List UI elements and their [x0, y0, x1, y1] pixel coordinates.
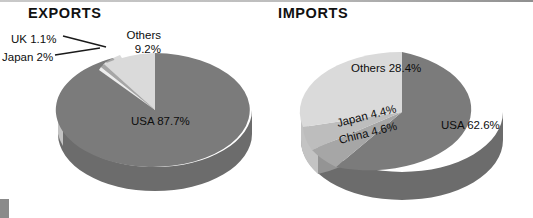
figure-canvas: EXPORTS UK 1.1% Japan 2% Others 9.2% USA…: [0, 0, 533, 218]
imports-label-usa: USA 62.6%: [441, 119, 500, 131]
imports-label-others: Others 28.4%: [351, 62, 421, 74]
imports-pie-chart: [0, 0, 533, 218]
